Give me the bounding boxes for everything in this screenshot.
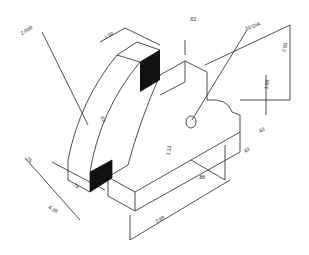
drawing-canvas: 2.00R 1.50 .63 .50 DIA 2.50 1.88 .63 .63… [0, 0, 309, 255]
dim-hole-from-edge: .88 [198, 175, 205, 180]
dim-top-slot: .63 [189, 17, 196, 22]
shaded-face-bottom [90, 160, 112, 192]
shaded-face-top [140, 50, 160, 92]
